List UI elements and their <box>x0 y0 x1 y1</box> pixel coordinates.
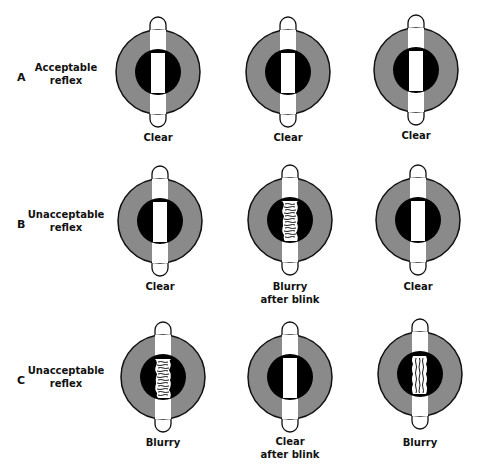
eye-caption: Blurry <box>108 436 218 449</box>
eye-diagram-clear <box>115 165 205 277</box>
description-line: Unacceptable <box>26 208 106 221</box>
eye-diagram-clear <box>373 164 463 276</box>
eye-caption: Blurry after blink <box>235 280 345 306</box>
description-line: Acceptable <box>26 61 106 74</box>
caption-line: after blink <box>235 293 345 306</box>
caption-line: Clear <box>233 131 343 144</box>
caption-line: Clear <box>235 435 345 448</box>
caption-line: Blurry <box>108 436 218 449</box>
eye-blurry-icon <box>245 164 335 276</box>
eye-caption: Clear <box>103 131 213 144</box>
description-line: reflex <box>26 221 106 234</box>
eye-caption: Clear <box>233 131 343 144</box>
eye-caption: Clear <box>361 129 471 142</box>
eye-caption: Clear after blink <box>235 435 345 461</box>
eye-diagram-clear <box>245 321 335 433</box>
eye-clear-icon <box>245 321 335 433</box>
caption-line: Clear <box>363 280 473 293</box>
row-letter: A <box>17 71 26 84</box>
caption-line: after blink <box>235 448 345 461</box>
row-description: Unacceptable reflex <box>26 364 106 390</box>
row-description: Acceptable reflex <box>26 61 106 87</box>
eye-clear-icon <box>113 16 203 128</box>
eye-caption: Clear <box>105 280 215 293</box>
eye-diagram-blurry <box>245 164 335 276</box>
eye-diagram-blurry <box>375 318 465 430</box>
caption-line: Blurry <box>235 280 345 293</box>
eye-clear-icon <box>115 165 205 277</box>
description-line: reflex <box>26 377 106 390</box>
eye-diagram-clear <box>371 14 461 126</box>
eye-caption: Clear <box>363 280 473 293</box>
eye-diagram-blurry <box>118 321 208 433</box>
caption-line: Blurry <box>365 436 475 449</box>
eye-blurry-icon <box>118 321 208 433</box>
eye-clear-icon <box>243 16 333 128</box>
description-line: reflex <box>26 74 106 87</box>
caption-line: Clear <box>361 129 471 142</box>
eye-diagram-clear <box>243 16 333 128</box>
eye-diagram-clear <box>113 16 203 128</box>
row-letter: C <box>17 374 25 387</box>
row-letter: B <box>17 218 25 231</box>
caption-line: Clear <box>103 131 213 144</box>
description-line: Unacceptable <box>26 364 106 377</box>
eye-clear-icon <box>371 14 461 126</box>
eye-blurry-icon <box>375 318 465 430</box>
row-description: Unacceptable reflex <box>26 208 106 234</box>
eye-caption: Blurry <box>365 436 475 449</box>
eye-clear-icon <box>373 164 463 276</box>
caption-line: Clear <box>105 280 215 293</box>
